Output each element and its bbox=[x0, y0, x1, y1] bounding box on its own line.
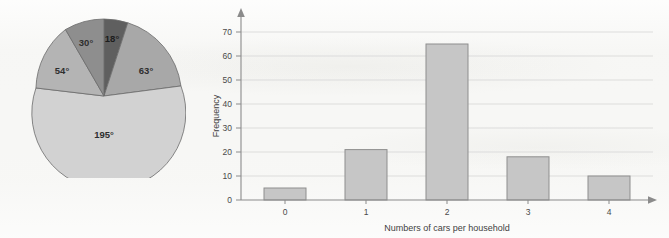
y-axis-arrow-icon bbox=[237, 8, 245, 17]
figure-canvas: 18° 63° 195° 54° 30° bbox=[0, 0, 669, 238]
y-tick-label-10: 10 bbox=[223, 171, 233, 181]
y-tick-label-70: 70 bbox=[223, 27, 233, 37]
y-tick-label-0: 0 bbox=[227, 195, 232, 205]
bar-category-2 bbox=[426, 44, 468, 200]
y-axis-title: Frequency bbox=[211, 94, 221, 137]
x-axis-title: Numbers of cars per household bbox=[384, 223, 510, 233]
bar-chart: 0 10 20 30 40 50 60 70 0 1 2 bbox=[205, 0, 669, 238]
y-tick-label-40: 40 bbox=[223, 99, 233, 109]
x-tick-label-4: 4 bbox=[607, 207, 612, 217]
bar-chart-svg: 0 10 20 30 40 50 60 70 0 1 2 bbox=[205, 0, 669, 238]
x-axis-arrow-icon bbox=[648, 196, 657, 204]
y-axis: 0 10 20 30 40 50 60 70 bbox=[223, 8, 245, 205]
pie-slice-label-30: 30° bbox=[79, 37, 94, 48]
y-tick-label-20: 20 bbox=[223, 147, 233, 157]
bar-category-4 bbox=[588, 176, 630, 200]
pie-slice-label-63: 63° bbox=[139, 65, 154, 76]
x-tick-label-2: 2 bbox=[445, 207, 450, 217]
bar-category-3 bbox=[507, 157, 549, 200]
x-tick-label-0: 0 bbox=[283, 207, 288, 217]
y-tick-label-50: 50 bbox=[223, 75, 233, 85]
x-tick-label-3: 3 bbox=[526, 207, 531, 217]
x-tick-label-1: 1 bbox=[364, 207, 369, 217]
bar-category-0 bbox=[264, 188, 306, 200]
y-tick-label-30: 30 bbox=[223, 123, 233, 133]
bar-series bbox=[264, 44, 630, 200]
pie-chart-svg: 18° 63° 195° 54° 30° bbox=[24, 16, 186, 178]
pie-chart: 18° 63° 195° 54° 30° bbox=[24, 16, 186, 178]
bar-category-1 bbox=[345, 150, 387, 200]
pie-slice-label-195: 195° bbox=[94, 129, 114, 140]
y-tick-label-60: 60 bbox=[223, 51, 233, 61]
pie-slice-label-18: 18° bbox=[105, 33, 120, 44]
pie-slice-label-54: 54° bbox=[55, 65, 70, 76]
